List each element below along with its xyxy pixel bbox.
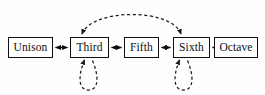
node-sixth[interactable]: Sixth: [173, 37, 210, 58]
dashed-arc-third-sixth: [82, 15, 181, 35]
node-label-unison: Unison: [14, 42, 48, 54]
node-label-octave: Octave: [219, 42, 252, 54]
node-label-sixth: Sixth: [179, 42, 204, 54]
node-unison[interactable]: Unison: [8, 37, 53, 58]
dashed-self-loop-third: [80, 60, 97, 90]
dashed-self-loop-sixth: [175, 60, 192, 90]
node-third[interactable]: Third: [70, 37, 109, 58]
node-fifth[interactable]: Fifth: [124, 37, 159, 58]
node-octave[interactable]: Octave: [214, 37, 258, 58]
interval-transition-diagram: Unison Third Fifth Sixth Octave: [0, 0, 265, 95]
node-label-third: Third: [76, 42, 102, 54]
node-label-fifth: Fifth: [130, 42, 153, 54]
